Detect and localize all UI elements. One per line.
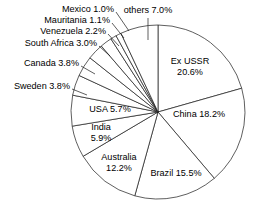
pie-chart-figure: Ex USSR20.6%China 18.2%Brazil 15.5%Austr… — [0, 0, 254, 207]
slice-label-sweden: Sweden 3.8% — [14, 81, 70, 91]
slice-label-brazil: Brazil 15.5% — [150, 168, 201, 178]
slice-label-india: India5.9% — [91, 122, 112, 143]
slice-label-south-africa: South Africa 3.0% — [25, 38, 97, 48]
slice-label-usa: USA 5.7% — [89, 104, 130, 114]
slice-label-mauritania: Mauritania 1.1% — [44, 15, 110, 25]
slice-label-canada: Canada 3.8% — [24, 58, 79, 68]
pie-chart-canvas: Ex USSR20.6%China 18.2%Brazil 15.5%Austr… — [0, 0, 254, 207]
slice-label-mexico: Mexico 1.0% — [62, 4, 114, 14]
slice-label-others: others 7.0% — [124, 5, 173, 15]
slice-label-venezuela: Venezuela 2.2% — [40, 26, 106, 36]
slice-label-china: China 18.2% — [173, 109, 225, 119]
